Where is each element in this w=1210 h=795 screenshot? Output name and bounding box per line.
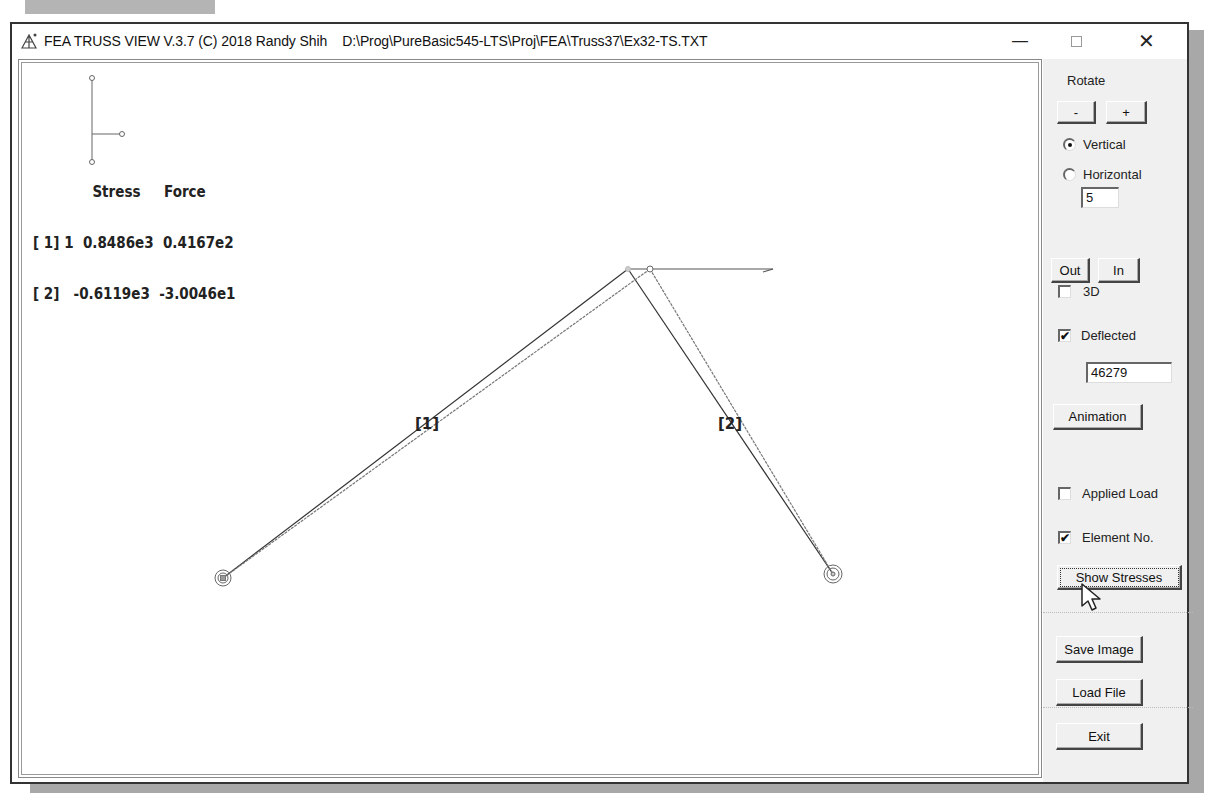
checkbox-element-no[interactable]: ✔	[1058, 531, 1071, 544]
pin-support-icon	[824, 565, 842, 583]
zoom-in-button[interactable]: In	[1098, 258, 1140, 283]
load-file-button[interactable]: Load File	[1056, 679, 1143, 706]
element-label-2: [2]	[718, 415, 742, 433]
readout-header: Stress Force	[33, 184, 235, 201]
app-window: FEA TRUSS VIEW V.3.7 (C) 2018 Randy Shih…	[10, 22, 1189, 784]
truss-app-icon	[20, 32, 38, 50]
animation-button[interactable]: Animation	[1053, 404, 1143, 430]
radio-vertical[interactable]	[1063, 138, 1076, 151]
maximize-button[interactable]	[1053, 24, 1099, 58]
pin-support-icon	[215, 570, 231, 586]
title-bar[interactable]: FEA TRUSS VIEW V.3.7 (C) 2018 Randy Shih…	[12, 24, 1187, 58]
readout-row-2: [ 2] -0.6119e3 -3.0046e1	[33, 286, 235, 303]
exit-button[interactable]: Exit	[1056, 723, 1143, 750]
panel-separator	[1043, 612, 1193, 613]
apex-deflected-node	[647, 266, 653, 272]
checkbox-3d[interactable]	[1058, 285, 1071, 298]
maximize-icon	[1071, 36, 1082, 47]
checkbox-applied-load-label: Applied Load	[1082, 486, 1158, 501]
close-button[interactable]: ✕	[1123, 24, 1169, 58]
truss-canvas[interactable]: Stress Force [ 1] 1 0.8486e3 0.4167e2 [ …	[18, 59, 1042, 778]
check-icon: ✔	[1060, 531, 1070, 545]
background-shade	[25, 0, 215, 14]
checkbox-element-no-label: Element No.	[1082, 530, 1154, 545]
save-image-button[interactable]: Save Image	[1056, 636, 1143, 663]
mouse-pointer-icon	[1080, 582, 1106, 614]
checkbox-deflected-label: Deflected	[1081, 328, 1136, 343]
deflection-scale-input[interactable]: 46279	[1086, 362, 1172, 383]
radio-horizontal[interactable]	[1063, 168, 1076, 181]
minimize-button[interactable]: —	[997, 24, 1043, 58]
minimize-icon: —	[1012, 32, 1028, 50]
control-panel: Rotate - + Vertical Horizontal 5 Out In …	[1043, 59, 1187, 782]
rotate-plus-button[interactable]: +	[1106, 101, 1147, 124]
radio-horizontal-label: Horizontal	[1083, 167, 1142, 182]
window-shadow	[30, 783, 1204, 793]
rotate-minus-button[interactable]: -	[1057, 101, 1096, 124]
zoom-out-button[interactable]: Out	[1051, 258, 1090, 283]
apex-original-node	[626, 267, 631, 272]
readout-row-1: [ 1] 1 0.8486e3 0.4167e2	[33, 235, 235, 252]
close-icon: ✕	[1138, 29, 1155, 53]
element-label-1: [1]	[415, 415, 439, 433]
check-icon: ✔	[1060, 329, 1070, 343]
window-title: FEA TRUSS VIEW V.3.7 (C) 2018 Randy Shih…	[44, 33, 707, 49]
rotate-label: Rotate	[1067, 73, 1105, 88]
rotate-step-input[interactable]: 5	[1081, 187, 1119, 208]
show-stresses-button[interactable]: Show Stresses	[1057, 565, 1182, 590]
radio-vertical-label: Vertical	[1083, 137, 1126, 152]
checkbox-3d-label: 3D	[1083, 284, 1100, 299]
window-shadow	[1188, 30, 1204, 792]
stress-force-readout: Stress Force [ 1] 1 0.8486e3 0.4167e2 [ …	[33, 150, 235, 337]
checkbox-applied-load[interactable]	[1058, 487, 1071, 500]
panel-separator	[1043, 707, 1193, 708]
checkbox-deflected[interactable]: ✔	[1058, 329, 1071, 342]
